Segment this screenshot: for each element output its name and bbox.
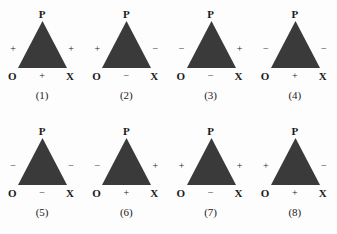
triangle-shape-icon	[187, 138, 236, 185]
triangle-shape-icon	[271, 21, 320, 68]
sign-left-edge: +	[92, 44, 102, 54]
vertex-label-bottom-left: O	[92, 71, 101, 82]
sign-left-edge: +	[177, 161, 187, 171]
triangle-shape-icon	[102, 21, 151, 68]
sign-right-edge: +	[66, 44, 76, 54]
sign-right-edge: −	[150, 44, 160, 54]
triangle-diagram: POX++−	[169, 126, 253, 204]
panel-caption: (7)	[169, 207, 253, 218]
vertex-label-bottom-left: O	[177, 188, 186, 199]
sign-right-edge: +	[235, 44, 245, 54]
vertex-label-bottom-right: X	[319, 71, 327, 82]
sign-left-edge: −	[261, 44, 271, 54]
triangle-diagram: POX+++	[0, 9, 84, 87]
vertex-label-bottom-left: O	[261, 71, 270, 82]
sign-left-edge: +	[8, 44, 18, 54]
panel-caption: (5)	[0, 207, 84, 218]
triangle-figure-grid: POX+++(1)POX+−−(2)POX−+−(3)POX−−+(4)POX−…	[0, 0, 337, 234]
sign-left-edge: −	[92, 161, 102, 171]
sign-right-edge: −	[66, 161, 76, 171]
triangle-panel: POX+++(1)	[0, 0, 84, 117]
vertex-label-apex: P	[84, 9, 168, 20]
triangle-diagram: POX−+−	[169, 9, 253, 87]
sign-bottom-edge: +	[290, 188, 300, 198]
sign-bottom-edge: −	[37, 188, 47, 198]
panel-caption: (4)	[253, 90, 337, 101]
vertex-label-apex: P	[253, 9, 337, 20]
sign-bottom-edge: +	[290, 71, 300, 81]
sign-bottom-edge: −	[206, 71, 216, 81]
vertex-label-bottom-right: X	[150, 71, 158, 82]
triangle-diagram: POX−++	[84, 126, 168, 204]
sign-right-edge: +	[150, 161, 160, 171]
vertex-label-bottom-right: X	[235, 71, 243, 82]
sign-bottom-edge: −	[206, 188, 216, 198]
triangle-diagram: POX+−+	[253, 126, 337, 204]
sign-bottom-edge: +	[37, 71, 47, 81]
triangle-diagram: POX−−+	[253, 9, 337, 87]
triangle-panel: POX−−+(4)	[253, 0, 337, 117]
sign-left-edge: +	[261, 161, 271, 171]
triangle-shape-icon	[18, 138, 67, 185]
triangle-shape-icon	[18, 21, 67, 68]
vertex-label-bottom-left: O	[8, 188, 17, 199]
vertex-label-apex: P	[84, 126, 168, 137]
vertex-label-bottom-left: O	[261, 188, 270, 199]
vertex-label-bottom-right: X	[319, 188, 327, 199]
vertex-label-apex: P	[169, 9, 253, 20]
sign-bottom-edge: −	[121, 71, 131, 81]
sign-right-edge: −	[319, 161, 329, 171]
panel-caption: (8)	[253, 207, 337, 218]
triangle-panel: POX++−(7)	[169, 117, 253, 234]
vertex-label-bottom-right: X	[150, 188, 158, 199]
sign-right-edge: −	[319, 44, 329, 54]
vertex-label-bottom-right: X	[235, 188, 243, 199]
triangle-panel: POX+−−(2)	[84, 0, 168, 117]
triangle-shape-icon	[187, 21, 236, 68]
triangle-diagram: POX−−−	[0, 126, 84, 204]
panel-caption: (6)	[84, 207, 168, 218]
sign-left-edge: −	[8, 161, 18, 171]
panel-caption: (3)	[169, 90, 253, 101]
vertex-label-apex: P	[0, 9, 84, 20]
triangle-panel: POX−−−(5)	[0, 117, 84, 234]
vertex-label-bottom-left: O	[8, 71, 17, 82]
vertex-label-apex: P	[169, 126, 253, 137]
vertex-label-apex: P	[0, 126, 84, 137]
triangle-shape-icon	[271, 138, 320, 185]
triangle-shape-icon	[102, 138, 151, 185]
triangle-diagram: POX+−−	[84, 9, 168, 87]
vertex-label-apex: P	[253, 126, 337, 137]
vertex-label-bottom-left: O	[92, 188, 101, 199]
triangle-panel: POX−+−(3)	[169, 0, 253, 117]
sign-right-edge: +	[235, 161, 245, 171]
vertex-label-bottom-right: X	[66, 71, 74, 82]
triangle-panel: POX−++(6)	[84, 117, 168, 234]
sign-bottom-edge: +	[121, 188, 131, 198]
panel-caption: (1)	[0, 90, 84, 101]
triangle-panel: POX+−+(8)	[253, 117, 337, 234]
vertex-label-bottom-left: O	[177, 71, 186, 82]
panel-caption: (2)	[84, 90, 168, 101]
vertex-label-bottom-right: X	[66, 188, 74, 199]
sign-left-edge: −	[177, 44, 187, 54]
